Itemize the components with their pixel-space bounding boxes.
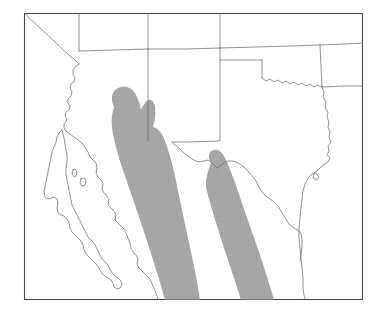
distribution-map-figure <box>0 0 386 315</box>
map-frame-border <box>25 14 363 300</box>
map-canvas <box>0 0 386 315</box>
